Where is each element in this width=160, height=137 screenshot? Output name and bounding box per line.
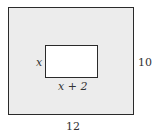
inner-height-label: x [36, 57, 42, 68]
outer-width-label: 12 [66, 121, 80, 132]
outer-height-label: 10 [138, 57, 152, 68]
inner-width-label: x + 2 [58, 81, 87, 92]
inner-rectangle [45, 45, 98, 78]
